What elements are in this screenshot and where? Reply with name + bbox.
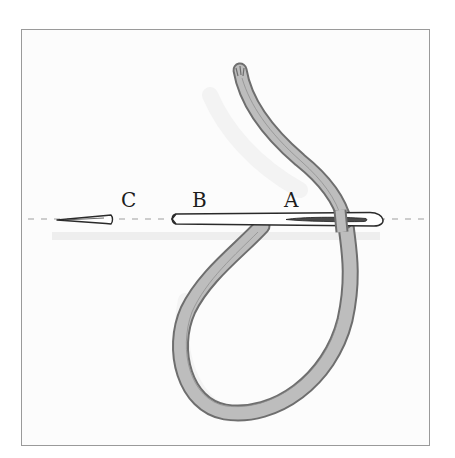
label-c: C (121, 190, 136, 210)
label-a: A (284, 190, 298, 210)
label-b: B (192, 190, 207, 210)
needle-thread-diagram: C B A (0, 0, 455, 458)
illustration-canvas (0, 0, 455, 458)
needle-tip-c (57, 215, 113, 224)
thread-through-eye (340, 210, 342, 232)
needle-main (172, 213, 383, 227)
